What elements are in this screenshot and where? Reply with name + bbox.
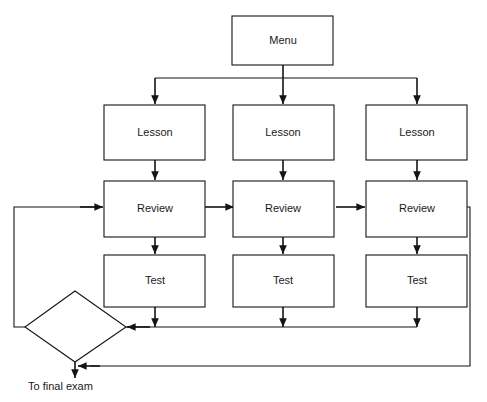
test-3-label: Test xyxy=(407,274,427,286)
review-1-label: Review xyxy=(137,202,173,214)
node-review-3[interactable]: Review xyxy=(366,181,467,237)
flowchart-svg: Menu Lesson Lesson Lesson Review Review … xyxy=(0,0,487,402)
node-review-2[interactable]: Review xyxy=(233,181,334,237)
menu-label: Menu xyxy=(269,34,297,46)
node-lesson-2[interactable]: Lesson xyxy=(233,105,334,160)
node-test-1[interactable]: Test xyxy=(104,255,205,307)
test-2-label: Test xyxy=(273,274,293,286)
node-review-1[interactable]: Review xyxy=(104,181,205,237)
node-lesson-3[interactable]: Lesson xyxy=(366,105,467,160)
node-lesson-1[interactable]: Lesson xyxy=(104,105,205,160)
node-test-3[interactable]: Test xyxy=(366,255,467,307)
lesson-2-label: Lesson xyxy=(265,126,300,138)
review-2-label: Review xyxy=(265,202,301,214)
review-3-label: Review xyxy=(399,202,435,214)
test-1-label: Test xyxy=(145,274,165,286)
lesson-3-label: Lesson xyxy=(399,126,434,138)
node-menu[interactable]: Menu xyxy=(232,16,333,65)
flowchart-canvas: Menu Lesson Lesson Lesson Review Review … xyxy=(0,0,487,402)
lesson-1-label: Lesson xyxy=(137,126,172,138)
final-exam-caption: To final exam xyxy=(28,380,93,392)
node-test-2[interactable]: Test xyxy=(233,255,334,307)
